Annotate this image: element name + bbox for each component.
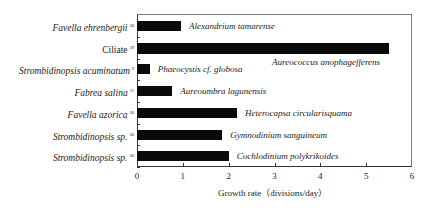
y-tick (137, 167, 140, 168)
bar (137, 21, 181, 31)
category-label: Favella azorica20 (68, 108, 134, 120)
category-label: Favella ehrenbergii28 (52, 21, 134, 33)
y-tick (137, 145, 140, 146)
x-tick (229, 163, 230, 167)
bar-annotation: Gymnodinium sanguineum (230, 130, 327, 140)
bar-annotation: Phaeocystis cf. globosa (158, 64, 243, 74)
bar-annotation: Aureoumbra lagunensis (180, 86, 266, 96)
y-tick (137, 59, 140, 60)
bar-annotation: Heterocapsa circularisquama (245, 108, 352, 118)
category-label: Strombidinopsis acuminatum9 (19, 64, 134, 76)
category-label: Fabrea salina11 (74, 86, 134, 98)
y-tick (137, 37, 140, 38)
x-tick-label: 5 (359, 171, 373, 181)
bar-annotation: Alexandrium tamarense (189, 21, 275, 31)
x-tick (183, 163, 184, 167)
growth-rate-bar-chart: 0123456 Growth rate（divisions/day） Favel… (0, 0, 431, 208)
y-tick (137, 124, 140, 125)
x-tick-label: 2 (222, 171, 236, 181)
x-tick-label: 3 (268, 171, 282, 181)
x-tick-label: 1 (176, 171, 190, 181)
bar (137, 130, 222, 140)
bar (137, 86, 172, 96)
x-tick (366, 163, 367, 167)
bar (137, 108, 237, 118)
bar-annotation: Cochlodinium polykrikoides (237, 151, 339, 161)
x-tick-label: 4 (313, 171, 327, 181)
y-tick (137, 80, 140, 81)
x-axis-label: Growth rate（divisions/day） (218, 186, 327, 199)
x-tick (275, 163, 276, 167)
y-tick (137, 102, 140, 103)
x-tick (320, 163, 321, 167)
category-label: Ciliate29 (102, 43, 134, 55)
bar (137, 151, 229, 161)
plot-frame (137, 14, 412, 167)
category-label: Strombidinopsis sp.30 (53, 151, 134, 163)
bar-annotation: Aureococcus anophagefferens (272, 57, 380, 67)
x-tick-label: 0 (130, 171, 144, 181)
category-label: Strombidinopsis sp.30 (53, 130, 134, 142)
x-tick-label: 6 (405, 171, 419, 181)
bar (137, 43, 389, 54)
bar (137, 64, 150, 74)
